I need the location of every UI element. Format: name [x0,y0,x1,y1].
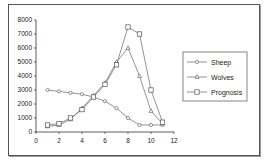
legend: SheepWolvesPrognosis [183,52,247,101]
y-tick-label: 2000 [18,100,33,107]
x-tick-label: 0 [34,137,38,144]
legend-label: Sheep [211,59,231,67]
series-prognosis [45,25,164,127]
y-tick-label: 6000 [18,44,33,51]
x-tick-label: 8 [126,137,130,144]
y-tick-label: 4000 [18,72,33,79]
y-tick-label: 0 [28,128,32,135]
x-tick-label: 10 [147,137,155,144]
x-tick-label: 6 [103,137,107,144]
x-tick-label: 2 [57,137,61,144]
series-sheep [46,88,164,126]
legend-label: Wolves [211,74,234,81]
y-tick-label: 7000 [18,30,33,37]
y-tick-label: 1000 [18,114,33,121]
y-tick-label: 5000 [18,58,33,65]
legend-label: Prognosis [211,89,243,97]
line-chart: 0100020003000400050006000700080000246810… [0,0,268,164]
x-tick-label: 4 [80,137,84,144]
y-tick-label: 8000 [18,16,33,23]
x-tick-label: 12 [170,137,178,144]
y-tick-label: 3000 [18,86,33,93]
